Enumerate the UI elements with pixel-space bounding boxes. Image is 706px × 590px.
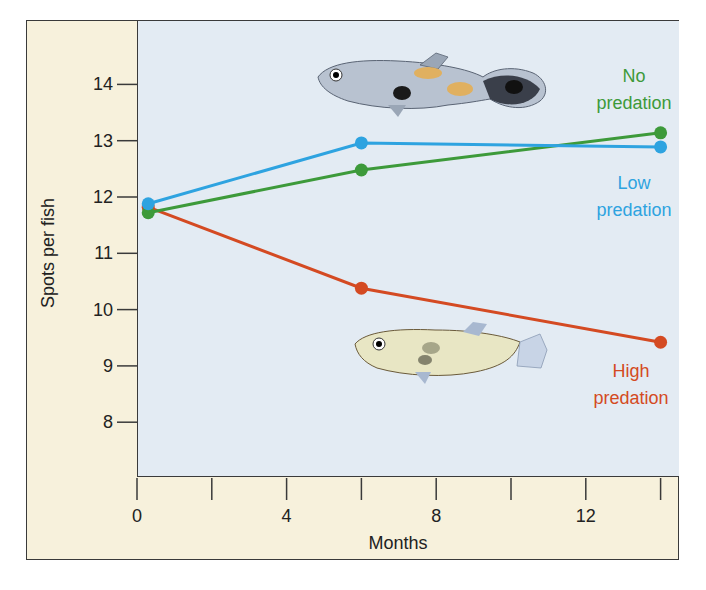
y-tick-label: 10 bbox=[93, 300, 113, 320]
series-labels: NopredationLowpredationHighpredation bbox=[593, 66, 671, 408]
data-point bbox=[654, 126, 667, 139]
series-line bbox=[148, 207, 660, 342]
data-point bbox=[654, 336, 667, 349]
data-point bbox=[142, 197, 155, 210]
y-tick-label: 11 bbox=[94, 243, 113, 263]
x-tick-label: 4 bbox=[282, 506, 292, 526]
colorful-guppy-illustration bbox=[318, 53, 546, 117]
y-axis: 891011121314 bbox=[93, 74, 137, 432]
y-tick-label: 13 bbox=[93, 131, 113, 151]
drab-guppy-illustration bbox=[355, 322, 547, 384]
series-label: predation bbox=[593, 388, 668, 408]
data-point bbox=[355, 163, 368, 176]
y-axis-title: Spots per fish bbox=[38, 198, 58, 308]
x-tick-label: 8 bbox=[431, 506, 441, 526]
y-tick-label: 14 bbox=[93, 74, 113, 94]
x-tick-label: 0 bbox=[132, 506, 142, 526]
series-label: High bbox=[612, 361, 649, 381]
series-label: predation bbox=[596, 200, 671, 220]
series-line bbox=[148, 143, 660, 204]
series-label: predation bbox=[596, 93, 671, 113]
x-tick-label: 12 bbox=[576, 506, 596, 526]
series-label: Low bbox=[617, 173, 651, 193]
data-point bbox=[355, 136, 368, 149]
y-tick-label: 8 bbox=[103, 412, 113, 432]
data-point bbox=[654, 140, 667, 153]
x-axis: 04812 bbox=[132, 478, 661, 526]
line-chart: 891011121314 04812 NopredationLowpredati… bbox=[0, 0, 706, 590]
series-lines bbox=[142, 126, 667, 348]
y-tick-label: 9 bbox=[103, 356, 113, 376]
series-label: No bbox=[622, 66, 645, 86]
x-axis-title: Months bbox=[368, 533, 427, 553]
data-point bbox=[355, 282, 368, 295]
y-tick-label: 12 bbox=[93, 187, 113, 207]
